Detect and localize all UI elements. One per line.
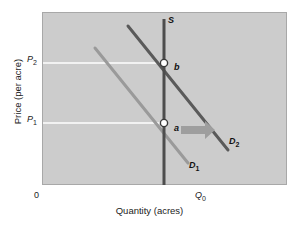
chart-curves: [43, 13, 288, 186]
x-axis-title: Quantity (acres): [0, 205, 299, 216]
demand-1-curve-label: D1: [189, 160, 199, 172]
ytick-label-p2: P2: [27, 54, 37, 66]
xtick-label-q0: Q0: [195, 190, 206, 202]
point-a-label: a: [174, 123, 179, 133]
ytick-label-p1: P1: [27, 114, 37, 126]
demand-shift-arrow-icon: [181, 121, 215, 139]
plot-inner: S b a D2 D1: [43, 13, 286, 184]
point-b-marker: [160, 59, 167, 66]
plot-area: S b a D2 D1: [42, 12, 287, 185]
y-axis-title: Price (per acre): [12, 37, 23, 147]
supply-demand-figure: S b a D2 D1 P2 P1 Q0 0 Price (per acre) …: [0, 0, 299, 229]
supply-curve-label: S: [168, 15, 174, 25]
demand-2-curve-label: D2: [229, 136, 239, 148]
origin-label: 0: [34, 190, 39, 200]
point-b-label: b: [174, 62, 180, 72]
point-a-marker: [160, 119, 167, 126]
